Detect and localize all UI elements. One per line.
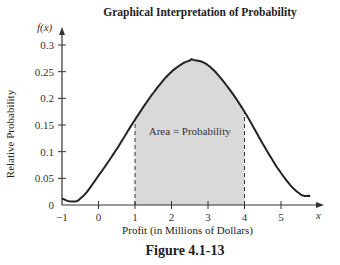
x-axis-symbol: x xyxy=(315,209,321,221)
x-tick-label: 3 xyxy=(205,211,211,223)
y-tick-label: 0.15 xyxy=(35,119,55,131)
y-axis-label: Relative Probability xyxy=(4,84,16,184)
x-tick-label: 4 xyxy=(242,211,248,223)
x-axis-label: Profit (in Millions of Dollars) xyxy=(0,224,340,236)
x-tick-label: 0 xyxy=(96,211,102,223)
y-tick-label: 0.3 xyxy=(40,39,54,51)
x-tick-label: 1 xyxy=(132,211,138,223)
x-tick-label: 2 xyxy=(169,211,175,223)
y-tick-label: 0.05 xyxy=(35,172,55,184)
x-tick-label: 5 xyxy=(278,211,284,223)
y-axis-symbol: f(x) xyxy=(37,21,53,34)
y-tick-label: 0 xyxy=(49,199,55,211)
y-tick-label: 0.25 xyxy=(35,66,55,78)
x-tick-label: −1 xyxy=(56,211,68,223)
figure-caption: Figure 4.1-13 xyxy=(0,243,340,259)
y-axis-arrow-icon xyxy=(59,27,65,35)
y-tick-label: 0.2 xyxy=(40,92,54,104)
x-axis-arrow-icon xyxy=(316,202,324,208)
area-annotation: Area = Probability xyxy=(149,125,231,137)
y-tick-label: 0.1 xyxy=(40,146,54,158)
